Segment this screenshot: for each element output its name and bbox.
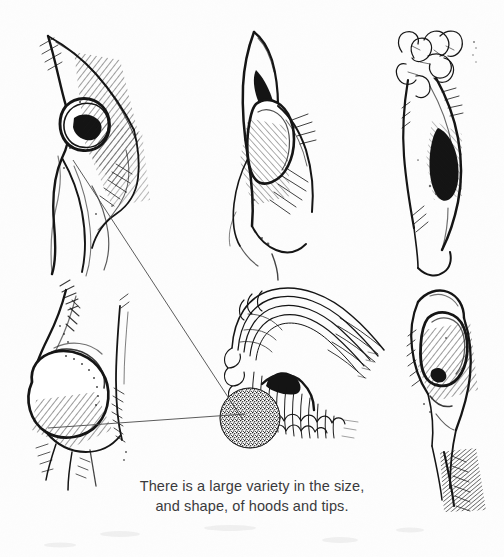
caption-line-2: and shape, of hoods and tips.	[0, 496, 504, 516]
caption: There is a large variety in the size, an…	[0, 476, 504, 516]
plate-artwork	[0, 0, 504, 557]
illustration-plate: There is a large variety in the size, an…	[0, 0, 504, 557]
caption-line-1: There is a large variety in the size,	[0, 476, 504, 496]
